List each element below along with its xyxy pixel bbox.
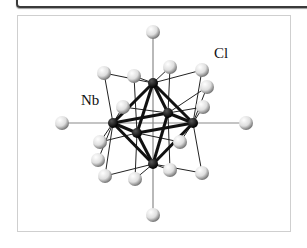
cl-label: Cl — [214, 45, 228, 62]
nb6cl18-cluster-diagram — [0, 0, 307, 248]
nb-label: Nb — [81, 92, 99, 109]
